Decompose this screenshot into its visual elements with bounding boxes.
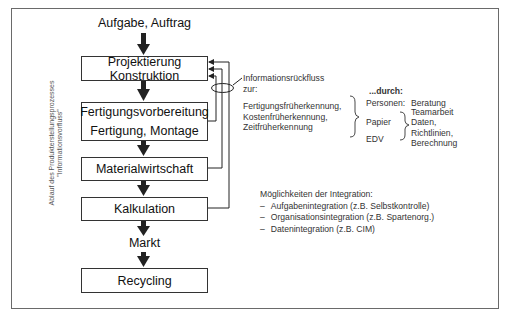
vertical-caption-line2: "Informationsvorfluss": [56, 68, 64, 218]
means-value: Daten,: [411, 117, 457, 128]
means-value: Richtlinien,: [411, 128, 457, 139]
means-value: Teamarbeit: [411, 107, 454, 118]
connector-lines: [0, 0, 511, 319]
feedback-item: Fertigungsfrüherkennung,: [243, 101, 341, 112]
vertical-caption: Ablauf des Produkterstellungsprozesses "…: [48, 68, 64, 218]
integration-item: – Aufgabenintegration (z.B. Selbstkontro…: [260, 201, 434, 213]
box-label: Konstruktion: [110, 69, 179, 83]
box-materialwirtschaft: Materialwirtschaft: [81, 157, 208, 181]
feedback-subtitle: zur:: [243, 84, 341, 95]
box-projektierung: Projektierung Konstruktion: [81, 56, 208, 81]
box-label: Recycling: [117, 274, 171, 288]
bullet-dash: –: [260, 212, 265, 224]
means-heading: ...durch:: [369, 86, 403, 97]
input-label: Aufgabe, Auftrag: [81, 16, 208, 30]
box-label: Fertigungsvorbereitung: [80, 103, 209, 122]
box-kalkulation: Kalkulation: [81, 197, 208, 221]
feedback-title: Informationsrückfluss: [243, 73, 341, 84]
integration-item-text: Datenintegration (z.B. CIM): [271, 224, 375, 236]
box-recycling: Recycling: [81, 268, 208, 293]
means-label-personen: Personen:: [366, 98, 405, 109]
integration-item-text: Organisationsintegration (z.B. Spartenor…: [271, 212, 434, 224]
means-grouped-values: Daten, Richtlinien, Berechnung: [411, 117, 457, 149]
market-label: Markt: [81, 236, 208, 250]
bullet-dash: –: [260, 224, 265, 236]
box-label: Fertigung, Montage: [90, 122, 198, 141]
box-label: Kalkulation: [114, 202, 175, 216]
vertical-caption-line1: Ablauf des Produkterstellungsprozesses: [48, 68, 56, 218]
means-label-edv: EDV: [366, 134, 384, 145]
integration-item-text: Aufgabenintegration (z.B. Selbstkontroll…: [271, 201, 430, 213]
box-label: Projektierung: [108, 55, 182, 69]
feedback-lines: [208, 62, 242, 208]
feedback-block: Informationsrückfluss zur: Fertigungsfrü…: [243, 73, 341, 133]
integration-item: – Organisationsintegration (z.B. Sparten…: [260, 212, 434, 224]
integration-item: – Datenintegration (z.B. CIM): [260, 224, 434, 236]
integration-block: Möglichkeiten der Integration: – Aufgabe…: [260, 189, 434, 235]
box-fertigung: Fertigungsvorbereitung Fertigung, Montag…: [81, 102, 208, 141]
bullet-dash: –: [260, 201, 265, 213]
means-value: Berechnung: [411, 138, 457, 149]
integration-heading: Möglichkeiten der Integration:: [260, 189, 434, 201]
means-label-papier: Papier: [366, 117, 391, 128]
feedback-item: Zeitfrüherkennung: [243, 122, 341, 133]
box-label: Materialwirtschaft: [96, 162, 193, 176]
feedback-item: Kostenfrüherkennung,: [243, 112, 341, 123]
